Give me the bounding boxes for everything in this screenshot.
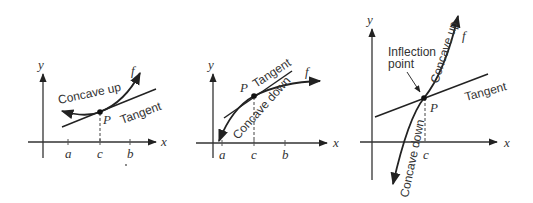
point-p: [97, 109, 103, 115]
tick-label-b: b: [127, 146, 134, 161]
point-p: [421, 95, 427, 101]
y-axis-label: y: [206, 57, 214, 72]
concave-up-label: Concave up: [57, 80, 123, 107]
tangent-label: Tangent: [118, 99, 164, 127]
x-axis-label: x: [503, 135, 510, 150]
tick-label-c: c: [97, 146, 103, 161]
point-label: P: [239, 80, 248, 95]
stray-dot: [125, 164, 127, 166]
panel-concave-down: y x a c b P Tangent f Concave down: [196, 55, 339, 162]
tick-label-a: a: [219, 147, 226, 162]
point-p: [251, 93, 257, 99]
tick-label-a: a: [65, 146, 72, 161]
tick-label-c: c: [423, 147, 429, 162]
inflection-label-line2: point: [388, 57, 415, 71]
function-label: f: [131, 63, 137, 78]
x-axis-label: x: [160, 134, 167, 149]
function-label: f: [305, 64, 311, 79]
concavity-diagram: y x a c b Concave up f P Tangent y x a c…: [0, 0, 533, 203]
point-label: P: [429, 100, 438, 115]
panel-inflection: y x c Inflection point Concave up f P Ta…: [360, 12, 510, 199]
tick-label-b: b: [282, 147, 289, 162]
y-axis-label: y: [36, 57, 44, 72]
x-axis-label: x: [332, 135, 339, 150]
tick-label-c: c: [251, 147, 257, 162]
panel-concave-up: y x a c b Concave up f P Tangent: [28, 57, 167, 166]
y-axis-label: y: [365, 12, 373, 27]
tangent-label: Tangent: [463, 79, 509, 104]
point-label: P: [102, 112, 111, 127]
function-label: f: [462, 28, 468, 43]
annotation-arrow: [407, 72, 420, 92]
